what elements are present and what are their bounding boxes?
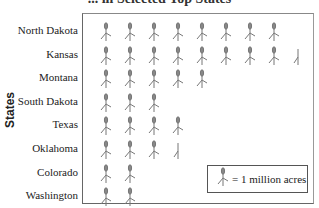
wheat-icon — [95, 69, 119, 89]
category-label: Kansas — [0, 48, 78, 60]
wheat-icon — [95, 140, 119, 160]
wheat-icon — [119, 46, 143, 66]
category-label: Colorado — [0, 166, 78, 178]
wheat-icon — [95, 116, 119, 136]
wheat-icon — [216, 167, 230, 191]
category-label: Washington — [0, 189, 78, 201]
chart-title: ... in Selected Top States — [0, 0, 319, 7]
category-label: North Dakota — [0, 24, 78, 36]
half-wheat-icon — [287, 46, 311, 66]
pictograph-row: North Dakota — [0, 22, 319, 46]
category-label: Texas — [0, 118, 78, 130]
legend: = 1 million acres — [207, 165, 308, 193]
category-label: Montana — [0, 71, 78, 83]
legend-text: = 1 million acres — [232, 173, 306, 185]
wheat-icon — [119, 116, 143, 136]
pictograph-row: Oklahoma — [0, 140, 319, 164]
wheat-icon — [215, 22, 239, 42]
wheat-icon — [95, 46, 119, 66]
pictograph-row: Montana — [0, 69, 319, 93]
wheat-icon — [167, 22, 191, 42]
wheat-icon — [95, 22, 119, 42]
wheat-icon — [119, 69, 143, 89]
wheat-icon — [143, 116, 167, 136]
wheat-icon — [95, 164, 119, 184]
wheat-icon — [143, 69, 167, 89]
wheat-icon — [239, 22, 263, 42]
wheat-icon — [191, 46, 215, 66]
wheat-icon — [239, 46, 263, 66]
category-label: South Dakota — [0, 95, 78, 107]
category-label: Oklahoma — [0, 142, 78, 154]
wheat-icon — [263, 46, 287, 66]
wheat-icon — [263, 22, 287, 42]
wheat-icon — [119, 93, 143, 113]
wheat-icon — [167, 69, 191, 89]
pictograph-row: South Dakota — [0, 93, 319, 117]
wheat-icon — [215, 46, 239, 66]
wheat-icon — [119, 22, 143, 42]
wheat-icon — [95, 187, 119, 207]
wheat-icon — [167, 46, 191, 66]
pictograph-row: Kansas — [0, 46, 319, 70]
wheat-icon — [191, 22, 215, 42]
wheat-icon — [167, 116, 191, 136]
wheat-icon — [143, 46, 167, 66]
wheat-icon — [119, 164, 143, 184]
wheat-icon — [191, 69, 215, 89]
wheat-icon — [143, 93, 167, 113]
wheat-icon — [95, 93, 119, 113]
wheat-icon — [143, 22, 167, 42]
wheat-icon — [143, 140, 167, 160]
wheat-icon — [119, 140, 143, 160]
pictograph-row: Texas — [0, 116, 319, 140]
wheat-icon — [119, 187, 143, 207]
half-wheat-icon — [167, 140, 191, 160]
